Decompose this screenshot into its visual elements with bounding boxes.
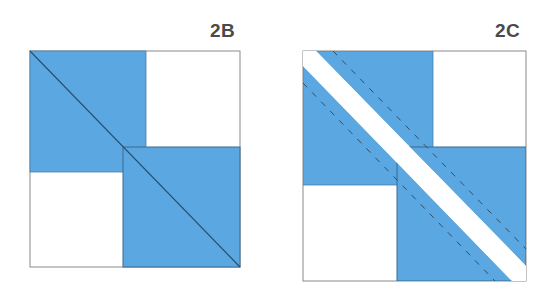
block-2b bbox=[30, 51, 240, 267]
quilt-diagram bbox=[0, 0, 550, 302]
block-2c bbox=[303, 51, 526, 281]
